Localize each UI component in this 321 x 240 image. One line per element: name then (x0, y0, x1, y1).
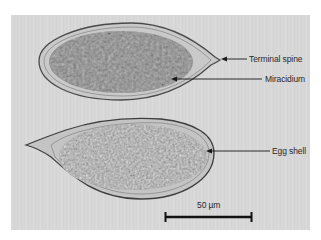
label-miracidium: Miracidium (265, 74, 305, 84)
label-terminal-spine: Terminal spine (249, 54, 302, 64)
top-egg (39, 23, 220, 100)
label-egg-shell: Egg shell (272, 146, 306, 156)
micrograph-canvas (11, 15, 310, 230)
micrograph-figure: Terminal spine Miracidium Egg shell 50 µ… (11, 15, 310, 230)
scale-bar (165, 212, 252, 222)
scale-bar-label: 50 µm (197, 200, 220, 210)
arrowhead-icon (221, 57, 227, 62)
bottom-egg (26, 118, 214, 199)
